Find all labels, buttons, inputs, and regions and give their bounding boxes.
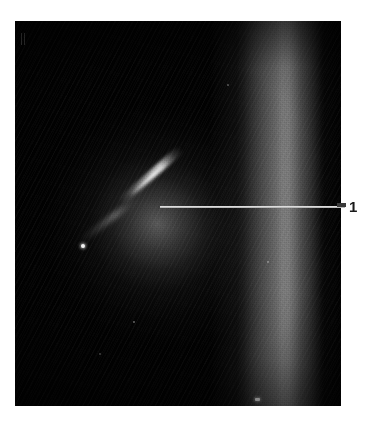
point-source-faint-star-b xyxy=(227,84,229,86)
plate-grain-texture xyxy=(15,21,341,406)
nebula-bright-filament xyxy=(118,145,183,205)
band-vertical-falloff xyxy=(15,21,341,406)
nebula-diffuse-glow xyxy=(32,95,282,352)
point-source-bright-star-left xyxy=(81,244,85,248)
point-source-bright-mark-bottom xyxy=(255,398,260,401)
callout-leader-line xyxy=(160,206,345,208)
point-source-faint-star-d xyxy=(267,261,269,263)
point-source-faint-star-a xyxy=(133,321,135,323)
sky-plate-image xyxy=(15,21,341,406)
plate-vignette xyxy=(15,21,341,406)
callout-label-1: 1 xyxy=(349,198,357,215)
figure-root: 1 xyxy=(0,0,369,422)
registration-ticks-icon xyxy=(21,33,28,45)
galactic-band-core-gradient xyxy=(15,21,341,406)
nebula-outer-halo xyxy=(15,59,327,393)
point-source-faint-star-c xyxy=(99,353,101,355)
galactic-band-gradient xyxy=(15,21,341,406)
plate-grain-texture-secondary xyxy=(15,21,341,406)
nebula-filament-core xyxy=(129,160,170,197)
callout-leader-tip xyxy=(337,203,346,207)
nebula-filament-arm xyxy=(78,196,137,245)
